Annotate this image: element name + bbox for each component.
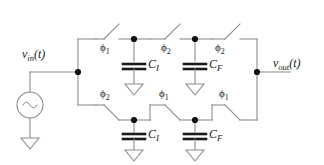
bottom-ci-node-dot [131,117,137,123]
capacitor-label-top-cf: CF [209,58,223,73]
phi-index: 2 [106,93,110,102]
cap-subscript: F [217,133,223,143]
phi-index: 1 [106,47,110,56]
top-row-wires [96,24,257,39]
output-voltage-suffix: (t) [289,56,300,70]
top-switch-1-blade [104,24,119,39]
phase-label-top-right-switch: ϕ2 [215,42,225,56]
bottom-switch-3-blade [225,105,240,120]
top-ci-ground-icon [125,84,143,95]
bottom-cf-ground-icon [186,150,204,161]
source-ground-icon [21,138,39,149]
bottom-cf-node-dot [192,117,198,123]
circuit-schematic-canvas [0,0,324,165]
right-bus [257,39,290,120]
cap-subscript: F [217,63,223,73]
phase-label-bottom-middle-switch: ϕ1 [159,88,169,102]
output-voltage-subscript: out [278,62,289,72]
source-branch [17,72,78,138]
capacitor-label-top-ci: CI [148,58,159,73]
bottom-ci-branch [123,120,145,161]
top-cf-node-dot [192,36,198,42]
cap-symbol: C [209,57,217,71]
bottom-cf-branch [184,120,206,161]
bottom-row-wires [96,105,257,120]
output-node-dot [254,69,260,75]
circuit-diagram: vin(t) vout(t) ϕ1 ϕ2 ϕ2 ϕ2 ϕ1 ϕ1 CI CF C… [0,0,324,165]
phase-label-bottom-left-switch: ϕ2 [100,88,110,102]
phase-label-bottom-right-switch: ϕ1 [219,88,229,102]
capacitor-label-bottom-ci: CI [148,128,159,143]
top-switch-3-blade [225,24,240,39]
cap-subscript: I [156,133,159,143]
phi-index: 1 [225,93,229,102]
phi-index: 2 [221,47,225,56]
top-ci-branch [123,39,145,95]
cap-subscript: I [156,63,159,73]
top-switch-2-blade [165,24,180,39]
capacitor-label-bottom-cf: CF [209,128,223,143]
phase-label-top-middle-switch: ϕ2 [161,42,171,56]
input-node-dot [75,69,81,75]
top-cf-branch [184,39,206,95]
top-ci-node-dot [131,36,137,42]
cap-symbol: C [148,127,156,141]
bottom-ci-ground-icon [125,150,143,161]
input-voltage-suffix: (t) [34,47,45,61]
cap-symbol: C [209,127,217,141]
output-voltage-label: vout(t) [273,57,301,72]
phase-label-top-left-switch: ϕ1 [100,42,110,56]
bottom-switch-2-blade [165,105,180,120]
input-voltage-subscript: in [27,53,34,63]
top-cf-ground-icon [186,84,204,95]
input-voltage-label: vin(t) [22,48,45,63]
phi-index: 2 [167,47,171,56]
bottom-switch-1-blade [104,105,119,120]
phi-index: 1 [165,93,169,102]
cap-symbol: C [148,57,156,71]
